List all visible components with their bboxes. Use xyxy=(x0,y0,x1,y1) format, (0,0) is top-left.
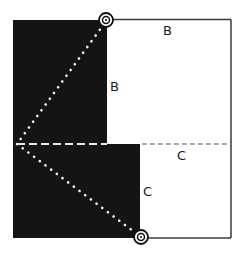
dark-region xyxy=(13,20,140,238)
top-target-marker-icon xyxy=(99,13,113,27)
label-upper-vertical-edge: B xyxy=(110,79,119,94)
label-dashed-right: C xyxy=(177,148,186,163)
bottom-target-marker-icon xyxy=(134,230,148,244)
fold-diagram: B B C C xyxy=(0,0,246,257)
label-top-edge: B xyxy=(163,23,172,38)
label-lower-vertical-edge: C xyxy=(143,184,152,199)
